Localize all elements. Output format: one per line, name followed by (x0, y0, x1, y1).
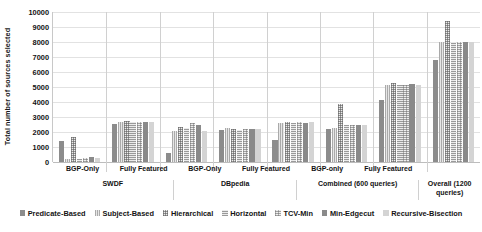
legend-label: Subject-Based (103, 209, 154, 218)
bar[interactable] (255, 129, 260, 162)
group-label: Overall (1200 queries) (418, 180, 480, 200)
bar[interactable] (124, 121, 129, 162)
y-axis-tick: 0 (45, 158, 49, 167)
y-axis-tick: 2000 (33, 128, 49, 137)
bar[interactable] (278, 123, 283, 162)
bar[interactable] (303, 123, 308, 162)
y-axis-tick: 3000 (33, 113, 49, 122)
bar[interactable] (83, 158, 88, 162)
bar[interactable] (219, 130, 224, 162)
legend-item[interactable]: Subject-Based (95, 209, 154, 218)
bar[interactable] (297, 122, 302, 162)
legend-swatch-icon (322, 210, 328, 216)
bar[interactable] (397, 85, 402, 162)
bar[interactable] (326, 129, 331, 162)
bar[interactable] (225, 128, 230, 162)
bar[interactable] (285, 122, 290, 162)
category-label (419, 165, 480, 176)
bar[interactable] (391, 83, 396, 162)
category-labels-row: BGP-OnlyFully FeaturedBGP-OnlyFully Feat… (52, 165, 480, 176)
bar[interactable] (332, 128, 337, 163)
bar-group (320, 12, 373, 162)
group-label: Combined (600 queries) (296, 180, 418, 200)
category-label: BGP-only (297, 165, 358, 176)
bar[interactable] (231, 129, 236, 162)
bar[interactable] (356, 125, 361, 163)
bar-group (373, 12, 426, 162)
bar[interactable] (190, 123, 195, 162)
bar-group (106, 12, 159, 162)
bar[interactable] (457, 42, 462, 162)
bar[interactable] (291, 123, 296, 162)
legend-label: Hierarchical (171, 209, 213, 218)
bar[interactable] (202, 131, 207, 163)
bar[interactable] (166, 153, 171, 162)
legend-swatch-icon (222, 210, 228, 216)
bar[interactable] (344, 125, 349, 162)
bar[interactable] (385, 85, 390, 162)
bar[interactable] (469, 42, 474, 162)
bar[interactable] (77, 159, 82, 162)
bar[interactable] (350, 125, 355, 163)
bar[interactable] (65, 159, 70, 162)
legend-item[interactable]: Predicate-Based (20, 209, 86, 218)
bar-chart: Total number of sources selected 1000090… (0, 0, 482, 232)
bar[interactable] (130, 122, 135, 163)
bar[interactable] (59, 141, 64, 162)
bar[interactable] (237, 130, 242, 162)
bar-group (160, 12, 213, 162)
bar[interactable] (196, 125, 201, 163)
legend: Predicate-BasedSubject-BasedHierarchical… (0, 205, 482, 221)
bar[interactable] (463, 42, 468, 162)
bar[interactable] (272, 140, 277, 163)
bar[interactable] (71, 137, 76, 162)
plot-area (52, 12, 480, 162)
y-axis-tick: 7000 (33, 53, 49, 62)
bar[interactable] (89, 157, 94, 162)
legend-swatch-icon (275, 210, 281, 216)
bar[interactable] (433, 60, 438, 162)
y-axis-tick: 4000 (33, 98, 49, 107)
bar-group (427, 12, 480, 162)
bar[interactable] (439, 42, 444, 162)
bar[interactable] (445, 21, 450, 162)
legend-item[interactable]: TCV-Min (275, 209, 313, 218)
legend-swatch-icon (20, 210, 26, 216)
bar[interactable] (137, 122, 142, 163)
bar-group (267, 12, 320, 162)
bar[interactable] (249, 129, 254, 162)
bar[interactable] (243, 129, 248, 162)
y-axis-tick: 8000 (33, 38, 49, 47)
legend-item[interactable]: Horizontal (222, 209, 266, 218)
legend-label: Predicate-Based (28, 209, 86, 218)
bar[interactable] (416, 85, 421, 162)
bar[interactable] (451, 42, 456, 162)
bar[interactable] (149, 122, 154, 163)
bar[interactable] (178, 127, 183, 162)
legend-item[interactable]: Hierarchical (163, 209, 213, 218)
bar[interactable] (95, 158, 100, 162)
legend-label: TCV-Min (283, 209, 313, 218)
bar[interactable] (403, 85, 408, 162)
y-axis-tick: 6000 (33, 68, 49, 77)
bar[interactable] (362, 125, 367, 162)
category-label: Fully Featured (235, 165, 296, 176)
category-label: BGP-Only (174, 165, 235, 176)
category-label: BGP-Only (52, 165, 113, 176)
y-axis-tick: 1000 (33, 143, 49, 152)
legend-item[interactable]: Min-Edgecut (322, 209, 374, 218)
bar-group (53, 12, 106, 162)
y-axis-tick: 9000 (33, 23, 49, 32)
y-axis-tick: 5000 (33, 83, 49, 92)
bar[interactable] (409, 84, 414, 162)
bar[interactable] (309, 122, 314, 162)
bar[interactable] (112, 124, 117, 162)
bar[interactable] (379, 100, 384, 162)
bar[interactable] (338, 104, 343, 163)
bars-layer (53, 12, 480, 162)
legend-item[interactable]: Recursive-Bisection (383, 209, 462, 218)
bar[interactable] (184, 128, 189, 163)
bar[interactable] (143, 122, 148, 163)
bar[interactable] (118, 122, 123, 162)
bar[interactable] (172, 131, 177, 163)
